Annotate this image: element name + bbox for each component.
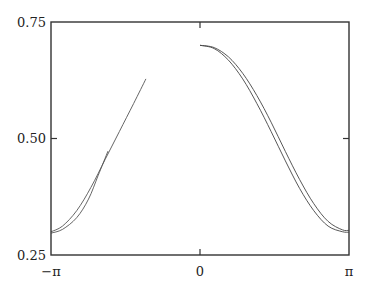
axes-frame: [51, 22, 349, 255]
x-tick-label-pi: π: [345, 264, 354, 279]
plot-series: [51, 45, 349, 233]
x-tick-label-zero: 0: [196, 264, 204, 279]
line-chart: 0.75 0.50 0.25 −π 0 π: [0, 0, 368, 287]
series-curve-a-left: [51, 79, 146, 232]
series-curve-b-left: [51, 151, 108, 233]
y-tick-label-0-75: 0.75: [17, 15, 46, 30]
series-curve-a-right: [200, 45, 349, 232]
y-tick-label-0-25: 0.25: [17, 248, 46, 263]
y-tick-label-0-50: 0.50: [17, 131, 46, 146]
x-tick-label-neg-pi: −π: [41, 264, 61, 279]
